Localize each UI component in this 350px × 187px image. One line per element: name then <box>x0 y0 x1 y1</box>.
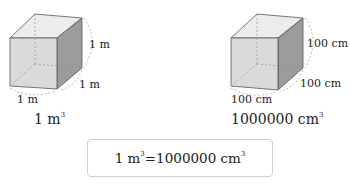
equation-text: 1 m3=1000000 cm3 <box>115 150 246 166</box>
equation-box: 1 m3=1000000 cm3 <box>87 139 273 177</box>
right-cube-height-label: 100 cm <box>307 37 348 50</box>
left-cube-caption: 1 m3 <box>34 111 65 127</box>
right-cube-depth-label: 100 cm <box>300 77 341 90</box>
right-cube-width-label: 100 cm <box>231 93 272 106</box>
left-cube-depth-label: 1 m <box>79 78 100 91</box>
left-cube-width-label: 1 m <box>17 93 38 106</box>
right-cube-caption: 1000000 cm3 <box>231 111 323 127</box>
left-cube-height-label: 1 m <box>89 38 110 51</box>
